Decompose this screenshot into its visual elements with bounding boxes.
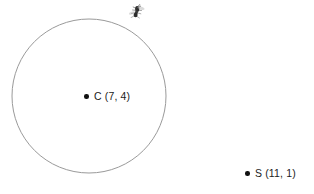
point-label-center: C (7, 4) — [94, 91, 130, 102]
circle-outline — [12, 19, 166, 173]
point-marker-center — [84, 94, 89, 99]
point-marker-external — [245, 171, 250, 176]
geometry-diagram-canvas — [0, 0, 314, 194]
ant-icon — [125, 1, 149, 21]
point-label-external: S (11, 1) — [255, 168, 296, 179]
